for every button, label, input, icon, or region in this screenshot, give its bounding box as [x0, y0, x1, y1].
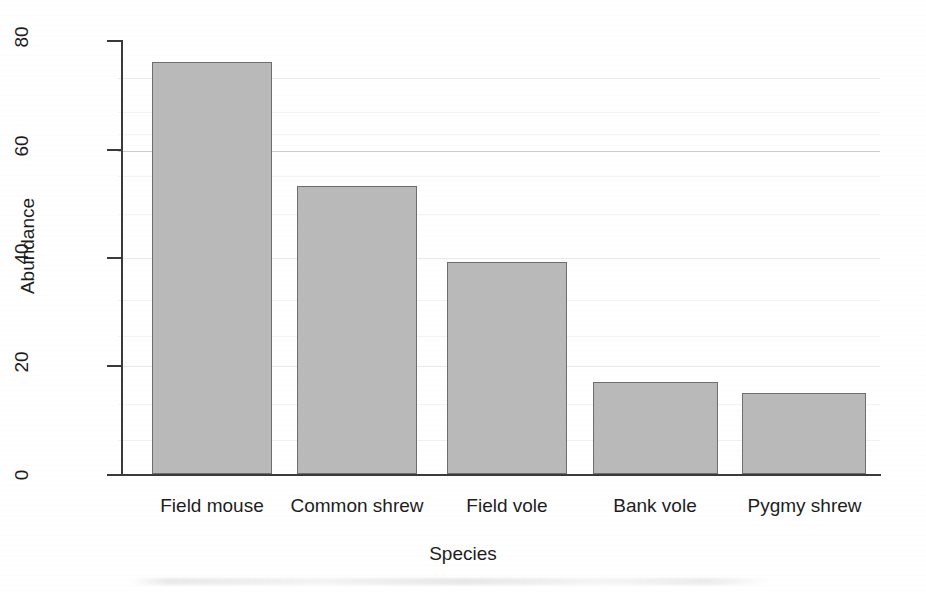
- bar-field-mouse: [152, 62, 272, 474]
- x-axis-category-label-2: Field vole: [432, 495, 582, 517]
- y-axis-tick-label-60: 60: [0, 135, 44, 157]
- x-axis-category-label-4: Pygmy shrew: [722, 495, 887, 517]
- y-axis-tick-60: [107, 149, 122, 151]
- x-axis-category-label-1: Common shrew: [272, 495, 442, 517]
- y-axis-tick-20: [107, 365, 122, 367]
- y-axis-tick-label-0: 0: [0, 464, 44, 486]
- x-axis-title: Species: [0, 543, 926, 565]
- bar-common-shrew: [297, 186, 417, 474]
- plot-area: 0 20 40 60 80 Field mouse Common shrew F…: [0, 0, 926, 594]
- y-axis-tick-0: [107, 474, 122, 476]
- bar-field-vole: [447, 262, 567, 474]
- bar-chart-figure: 0 20 40 60 80 Field mouse Common shrew F…: [0, 0, 926, 594]
- y-axis-tick-80: [107, 40, 122, 42]
- y-axis-tick-label-80: 80: [0, 26, 44, 48]
- bar-bank-vole: [593, 382, 718, 474]
- x-axis-line: [121, 474, 881, 476]
- bar-pygmy-shrew: [742, 393, 866, 474]
- y-axis-title: Abundance: [17, 166, 39, 326]
- y-axis-tick-40: [107, 257, 122, 259]
- x-axis-category-label-0: Field mouse: [132, 495, 292, 517]
- y-axis-tick-label-20: 20: [0, 351, 44, 373]
- x-axis-category-label-3: Bank vole: [580, 495, 730, 517]
